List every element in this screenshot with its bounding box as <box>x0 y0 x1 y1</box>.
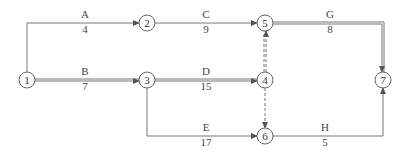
svg-text:7: 7 <box>380 74 386 86</box>
activity-b-name: B <box>81 65 88 77</box>
activity-a-name: A <box>81 8 89 20</box>
activity-c-name: C <box>202 8 209 20</box>
activity-g-name: G <box>326 8 334 20</box>
svg-text:1: 1 <box>24 74 30 86</box>
node-7: 7 <box>375 72 391 88</box>
activity-g-duration: 8 <box>327 23 333 35</box>
svg-text:4: 4 <box>262 74 268 86</box>
svg-text:2: 2 <box>144 17 150 29</box>
activity-e-name: E <box>203 121 210 133</box>
network-diagram: A 4 B 7 C 9 D 15 E 17 G 8 H 5 <box>0 0 406 157</box>
node-6: 6 <box>257 128 273 144</box>
node-4: 4 <box>257 72 273 88</box>
activity-d-name: D <box>202 65 210 77</box>
activity-b-duration: 7 <box>82 80 88 92</box>
activity-a-duration: 4 <box>82 23 88 35</box>
node-5: 5 <box>257 15 273 31</box>
activity-c-duration: 9 <box>203 23 209 35</box>
svg-text:3: 3 <box>144 74 150 86</box>
activity-d-duration: 15 <box>201 80 213 92</box>
node-2: 2 <box>139 15 155 31</box>
node-3: 3 <box>139 72 155 88</box>
svg-text:6: 6 <box>262 130 268 142</box>
activity-h-duration: 5 <box>322 136 328 148</box>
svg-text:5: 5 <box>262 17 268 29</box>
activity-e-duration: 17 <box>201 136 213 148</box>
dummy-4-5-arrow <box>264 31 266 72</box>
node-1: 1 <box>19 72 35 88</box>
activity-h-name: H <box>321 121 329 133</box>
